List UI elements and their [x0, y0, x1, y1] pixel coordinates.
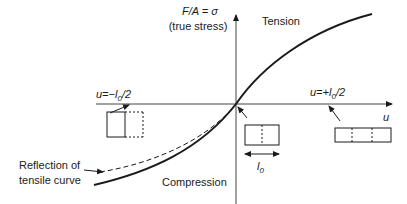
origin-arrow [238, 107, 247, 118]
tension-label: Tension [262, 15, 300, 27]
length-label: l0 [257, 160, 264, 175]
compressed-specimen [107, 112, 143, 137]
compression-label: Compression [162, 176, 227, 188]
stretched-specimen [335, 128, 391, 142]
x-axis-label: u [383, 111, 389, 123]
annotation-pos-arrow [329, 106, 340, 121]
true-stress-curve [94, 14, 372, 185]
reflection-label: Reflection of [19, 159, 81, 171]
reflection-label-line2: tensile curve [19, 174, 81, 186]
stress-diagram: F/A = σ (true stress) Tension Compressio… [0, 0, 407, 204]
original-specimen [245, 125, 279, 145]
annotation-pos: u=+l0/2 [310, 86, 345, 101]
annotation-neg: u=−l0/2 [96, 88, 131, 103]
y-axis-label-sub: (true stress) [169, 20, 228, 32]
y-axis-label: F/A = σ [182, 5, 218, 17]
reflection-arrow [84, 170, 103, 172]
reflected-tensile-curve [100, 104, 236, 172]
